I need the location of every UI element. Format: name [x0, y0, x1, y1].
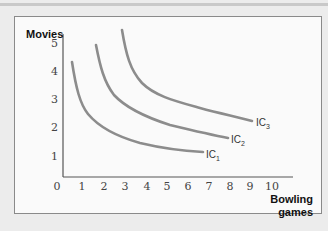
x-axis-title-line2: games [278, 206, 313, 218]
y-tick-label: 3 [51, 93, 58, 106]
ic3-label-main: IC [256, 117, 266, 128]
ic2-label: IC2 [231, 134, 245, 147]
x-tick-label: 0 [54, 180, 61, 193]
ic2-label-main: IC [231, 134, 241, 145]
x-tick-label: 10 [265, 180, 279, 193]
x-tick-label: 1 [79, 180, 86, 193]
ic3-curve [122, 30, 252, 121]
ic2-label-sub: 2 [241, 140, 245, 147]
x-tick-label: 8 [227, 180, 234, 193]
ic2-curve [96, 45, 228, 138]
x-tick-label: 9 [247, 180, 254, 193]
x-tick-label: 2 [101, 180, 108, 193]
x-tick-label: 7 [206, 180, 213, 193]
ic3-label: IC3 [256, 117, 270, 130]
y-tick-label: 4 [51, 65, 58, 78]
y-tick-labels: 5 4 3 2 1 [51, 37, 58, 163]
y-tick-label: 1 [51, 150, 58, 163]
ic1-label: IC1 [206, 149, 220, 162]
x-tick-label: 5 [164, 180, 171, 193]
y-tick-label: 5 [51, 37, 58, 50]
x-axis-title-line1: Bowling [270, 193, 313, 205]
ic1-label-sub: 1 [216, 155, 220, 162]
ic1-label-main: IC [206, 149, 216, 160]
ic3-label-sub: 3 [266, 123, 270, 130]
x-tick-label: 4 [144, 180, 151, 193]
x-tick-labels: 0 1 2 3 4 5 6 7 8 9 10 [54, 180, 280, 193]
indifference-curve-chart: Movies 5 4 3 2 1 0 1 2 3 4 5 6 7 8 9 10 … [0, 0, 328, 231]
y-tick-label: 2 [51, 121, 58, 134]
x-tick-label: 3 [122, 180, 129, 193]
x-tick-label: 6 [185, 180, 192, 193]
